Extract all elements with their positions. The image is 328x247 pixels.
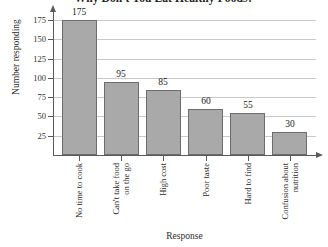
y-tick-label: 125 (18, 54, 46, 64)
x-category-label: High cost (141, 163, 185, 229)
y-tick-mark (48, 116, 54, 117)
x-category-label: No time to cook (57, 163, 101, 229)
y-tick-mark (48, 59, 54, 60)
x-category-label: Can't take foodon the go (99, 163, 143, 229)
x-tick-mark (206, 156, 207, 161)
bar (146, 90, 181, 155)
y-tick-mark (48, 97, 54, 98)
y-tick-label: 75 (18, 92, 46, 102)
y-tick-mark (48, 39, 54, 40)
y-tick-mark (48, 78, 54, 79)
y-axis-arrow-icon (50, 5, 56, 12)
x-tick-mark (121, 156, 122, 161)
x-category-label: Hard to find (226, 163, 270, 229)
x-tick-mark (79, 156, 80, 161)
bar (62, 20, 97, 155)
bar-value-label: 55 (228, 100, 268, 110)
y-tick-label: 100 (18, 73, 46, 83)
x-category-label-line: Poor taste (202, 163, 211, 197)
x-category-label: Confusion aboutnutrition (268, 163, 312, 229)
x-category-label-line: Can't take food (112, 163, 121, 215)
y-tick-label: 150 (18, 34, 46, 44)
x-category-label-line: High cost (159, 163, 168, 196)
bar-value-label: 30 (270, 119, 310, 129)
x-category-label-line: on the go (122, 163, 131, 195)
bar (230, 113, 265, 155)
chart-figure: Why Don't You Eat Healthy Foods? Number … (0, 0, 328, 247)
x-tick-mark (248, 156, 249, 161)
x-category-label-line: No time to cook (75, 163, 84, 218)
x-category-label-line: Hard to find (244, 163, 253, 205)
x-axis-title: Response (53, 231, 316, 241)
bar-value-label: 60 (186, 96, 226, 106)
chart-title: Why Don't You Eat Healthy Foods? (0, 0, 328, 4)
y-tick-label: 50 (18, 111, 46, 121)
y-axis-line (53, 11, 54, 155)
y-tick-label: 25 (18, 131, 46, 141)
x-tick-mark (163, 156, 164, 161)
x-category-label-line: nutrition (291, 163, 300, 192)
bar (188, 109, 223, 155)
y-tick-mark (48, 136, 54, 137)
bar (272, 132, 307, 155)
x-tick-mark (290, 156, 291, 161)
bar (104, 82, 139, 155)
x-category-label-line: Confusion about (281, 163, 290, 219)
bar-value-label: 85 (143, 77, 183, 87)
bar-value-label: 95 (101, 69, 141, 79)
x-axis-line (53, 155, 316, 156)
bar-value-label: 175 (59, 7, 99, 17)
y-tick-label: 175 (18, 15, 46, 25)
x-axis-arrow-icon (316, 152, 323, 158)
y-tick-mark (48, 20, 54, 21)
x-category-label: Poor taste (184, 163, 228, 229)
